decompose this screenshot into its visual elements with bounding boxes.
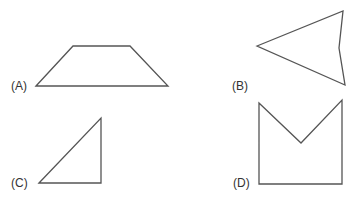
triangle-shape-c bbox=[39, 118, 101, 183]
notched-shape-d bbox=[259, 100, 342, 184]
arrowhead-shape-b bbox=[257, 11, 345, 85]
label-c: (C) bbox=[11, 177, 28, 189]
label-a: (A) bbox=[11, 80, 27, 92]
label-d: (D) bbox=[233, 177, 250, 189]
figures-canvas bbox=[0, 0, 349, 200]
label-b: (B) bbox=[232, 80, 248, 92]
trapezoid-shape-a bbox=[36, 46, 168, 86]
